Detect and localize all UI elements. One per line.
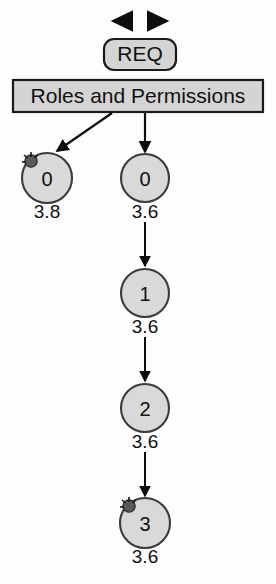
node-chain-3-value: 3 bbox=[139, 513, 150, 535]
node-chain-0-score: 3.6 bbox=[132, 201, 158, 222]
diagram-canvas: REQ Roles and Permissions 0 3.8 0 3.6 1 … bbox=[0, 0, 276, 584]
req-node-label: REQ bbox=[117, 42, 163, 65]
edge-header-to-left-node bbox=[57, 113, 112, 151]
node-left-0-score: 3.8 bbox=[34, 201, 60, 222]
node-chain-2-value: 2 bbox=[139, 398, 150, 420]
star-burst-icon bbox=[22, 152, 38, 167]
node-chain-3-score: 3.6 bbox=[132, 546, 158, 567]
node-chain-1-score: 3.6 bbox=[132, 316, 158, 337]
node-chain-1-value: 1 bbox=[139, 283, 150, 305]
header-box-label: Roles and Permissions bbox=[31, 84, 246, 107]
node-left-0-value: 0 bbox=[41, 168, 52, 190]
diagram-svg: REQ Roles and Permissions 0 3.8 0 3.6 1 … bbox=[0, 0, 276, 584]
node-chain-0-value: 0 bbox=[139, 168, 150, 190]
star-burst-icon bbox=[120, 497, 136, 512]
node-chain-2-score: 3.6 bbox=[132, 431, 158, 452]
